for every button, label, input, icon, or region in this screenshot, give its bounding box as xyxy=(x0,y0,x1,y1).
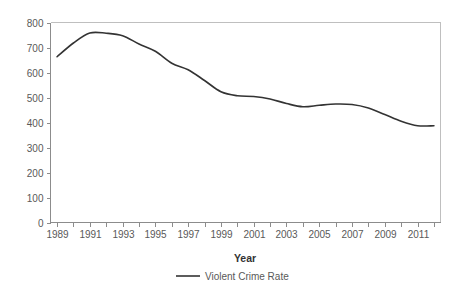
x-tick-label: 1997 xyxy=(177,229,200,240)
x-tick-label: 1999 xyxy=(210,229,233,240)
y-tick-label: 700 xyxy=(27,43,44,54)
chart-canvas: 0100200300400500600700800 19891991199319… xyxy=(0,0,460,291)
x-tick-label: 1993 xyxy=(112,229,135,240)
y-tick-label: 300 xyxy=(27,143,44,154)
y-tick-label: 100 xyxy=(27,193,44,204)
x-tick-label: 2005 xyxy=(308,229,331,240)
x-tick-label: 1995 xyxy=(144,229,167,240)
y-tick-label: 400 xyxy=(27,118,44,129)
x-tick-label: 2007 xyxy=(341,229,364,240)
x-tick-label: 2009 xyxy=(374,229,397,240)
chart-background xyxy=(0,0,460,291)
x-tick-label: 1991 xyxy=(79,229,102,240)
x-tick-label: 2011 xyxy=(408,229,430,240)
y-tick-label: 800 xyxy=(27,18,44,29)
y-tick-label: 500 xyxy=(27,93,44,104)
x-tick-label: 1989 xyxy=(46,229,69,240)
y-tick-label: 0 xyxy=(38,218,44,229)
x-axis-title-group: Year xyxy=(234,252,256,264)
y-tick-label: 200 xyxy=(27,168,44,179)
x-axis-title: Year xyxy=(234,252,256,264)
violent-crime-rate-chart: 0100200300400500600700800 19891991199319… xyxy=(0,0,460,291)
x-tick-label: 2001 xyxy=(243,229,266,240)
y-tick-label: 600 xyxy=(27,68,44,79)
legend-label: Violent Crime Rate xyxy=(205,271,289,282)
x-tick-label: 2003 xyxy=(275,229,298,240)
